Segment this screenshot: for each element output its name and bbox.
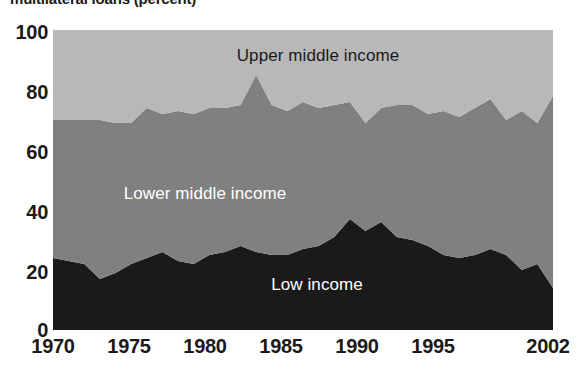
x-tick-label: 1970: [31, 334, 74, 358]
band-label-low-income: Low income: [271, 275, 363, 294]
x-tick-label: 1985: [259, 334, 302, 358]
band-label-upper-middle-income: Upper middle income: [237, 46, 400, 65]
x-tick-label: 2002: [526, 334, 569, 358]
x-tick-label: 1990: [335, 334, 378, 358]
x-tick-label: 1975: [107, 334, 150, 358]
x-tick-label: 1980: [183, 334, 226, 358]
stacked-area-plot: Upper middle incomeLower middle incomeLo…: [0, 0, 577, 371]
x-axis: 1970197519801985199019952002: [0, 334, 577, 364]
chart-figure: multilateral loans (percent) 10080604020…: [0, 0, 577, 371]
x-tick-label: 1995: [411, 334, 454, 358]
band-label-lower-middle-income: Lower middle income: [124, 184, 287, 203]
